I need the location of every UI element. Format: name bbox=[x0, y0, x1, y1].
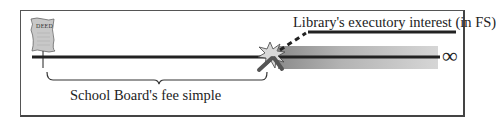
executory-interest-label: Library's executory interest (in FS) bbox=[293, 14, 496, 31]
infinity-symbol: ∞ bbox=[442, 45, 458, 67]
fee-simple-label: School Board's fee simple bbox=[70, 87, 221, 104]
deed-label: DEED bbox=[36, 23, 53, 29]
fee-simple-brace bbox=[47, 72, 267, 84]
